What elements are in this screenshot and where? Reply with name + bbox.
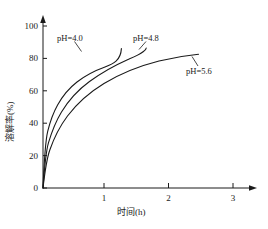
x-axis-title: 时间(h) [117, 208, 146, 217]
x-tick-label-2: 2 [159, 194, 179, 203]
x-tick-label-3: 3 [223, 194, 243, 203]
series-label-ph-5-6: pH=5.6 [186, 67, 212, 76]
series-label-ph-4-0: pH=4.0 [57, 34, 83, 43]
leader-line-ph-5-6 [192, 57, 198, 67]
x-axis-arrowhead [249, 185, 257, 191]
y-axis-arrowhead [40, 15, 46, 23]
y-tick-label-100: 100 [12, 22, 38, 31]
y-tick-label-40: 40 [12, 119, 38, 128]
leader-line-ph-4-0 [75, 42, 82, 52]
y-tick-label-60: 60 [12, 87, 38, 96]
y-tick-label-80: 80 [12, 54, 38, 63]
y-tick-label-20: 20 [12, 152, 38, 161]
curve-ph-4-8 [43, 48, 146, 188]
x-tick-marks [104, 183, 233, 188]
curve-ph-5-6 [43, 54, 199, 188]
series-label-ph-4-8: pH=4.8 [133, 34, 159, 43]
curve-ph-4-0 [43, 49, 121, 188]
y-tick-label-0: 0 [12, 184, 38, 193]
x-tick-label-1: 1 [94, 194, 114, 203]
y-axis-title: 溶解率(%) [6, 102, 15, 143]
dissolution-rate-chart: 100 80 60 40 20 0 1 2 3 时间(h) 溶解率(%) pH=… [0, 0, 268, 229]
